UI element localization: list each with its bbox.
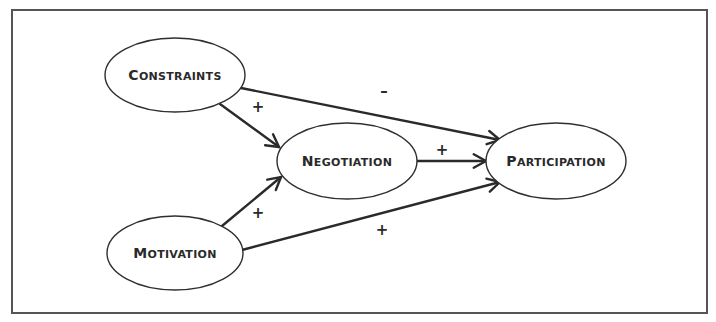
edge-sign-negotiation-participation: + — [436, 141, 449, 159]
node-participation-label: PARTICIPATION — [506, 153, 605, 169]
node-participation[interactable]: PARTICIPATION — [486, 123, 626, 199]
edge-sign-constraints-participation: – — [380, 82, 388, 100]
node-negotiation[interactable]: NEGOTIATION — [277, 123, 417, 199]
edge-sign-motivation-participation: + — [376, 221, 389, 239]
node-motivation-label: MOTIVATION — [133, 245, 216, 261]
edge-sign-motivation-negotiation: + — [252, 204, 265, 222]
node-motivation[interactable]: MOTIVATION — [107, 216, 243, 290]
edge-sign-constraints-negotiation: + — [252, 98, 265, 116]
node-negotiation-label: NEGOTIATION — [302, 153, 392, 169]
node-constraints-label: CONSTRAINTS — [128, 67, 221, 83]
diagram-canvas: CONSTRAINTS NEGOTIATION PARTICIPATION MO… — [0, 0, 716, 322]
node-constraints[interactable]: CONSTRAINTS — [105, 38, 245, 112]
